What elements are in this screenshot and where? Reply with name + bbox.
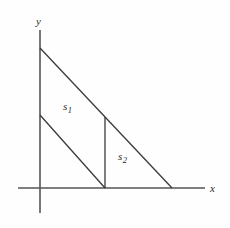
region-label-s2-base: s <box>118 150 122 162</box>
region-label-s1: s1 <box>63 101 72 112</box>
region-label-s2-subscript: 2 <box>123 155 127 165</box>
y-axis-label: y <box>36 16 41 27</box>
hypotenuse-line <box>40 48 172 188</box>
geometry-figure: y x s1 s2 <box>0 0 230 228</box>
figure-canvas <box>0 0 230 228</box>
region-label-s1-subscript: 1 <box>68 105 72 115</box>
x-axis-label: x <box>210 183 215 194</box>
region-label-s1-base: s <box>63 100 67 112</box>
region-label-s2: s2 <box>118 151 127 162</box>
inner-parallel-line <box>40 115 105 188</box>
